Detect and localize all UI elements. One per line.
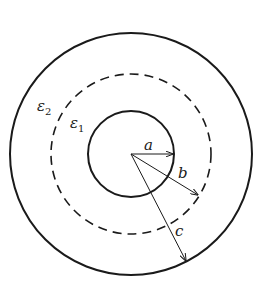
label-c: c xyxy=(175,222,184,240)
label-a: a xyxy=(144,136,153,154)
concentric-circles-diagram: ε2 ε1 a b c xyxy=(0,0,275,298)
label-epsilon-2: ε2 xyxy=(37,97,51,117)
label-epsilon-1: ε1 xyxy=(70,114,84,134)
label-b: b xyxy=(178,164,188,182)
